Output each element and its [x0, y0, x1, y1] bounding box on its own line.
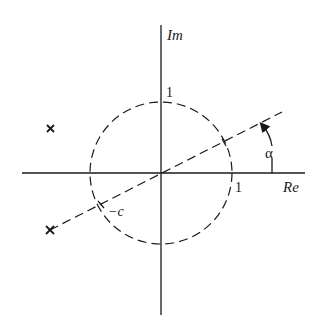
cross-marker-upper — [47, 125, 54, 132]
cross-marker-lower — [46, 226, 54, 234]
angle-alpha-label: α — [265, 145, 273, 161]
imaginary-axis-label: Im — [166, 27, 183, 43]
dashed-ray — [50, 112, 282, 230]
imag-unit-tick-label: 1 — [166, 85, 173, 100]
real-axis-label: Re — [282, 179, 299, 195]
complex-plane-diagram: Im Re 1 1 α −c — [0, 0, 318, 315]
real-unit-tick-label: 1 — [235, 180, 242, 195]
minus-c-label: −c — [108, 204, 124, 219]
